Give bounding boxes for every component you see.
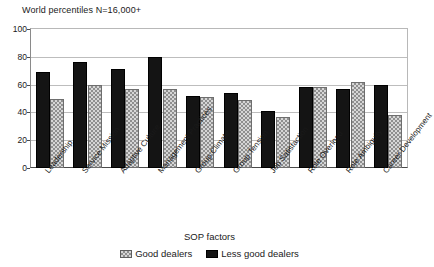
y-axis-tick-label: 100	[13, 25, 27, 34]
y-axis-tick-label: 20	[18, 136, 27, 145]
bar-less-good-dealers	[73, 62, 87, 168]
legend-swatch-good-dealers	[120, 250, 132, 258]
bar-less-good-dealers	[111, 69, 125, 168]
legend-item: Less good dealers	[206, 248, 299, 259]
bar-less-good-dealers	[36, 72, 50, 168]
legend-label: Less good dealers	[221, 248, 299, 259]
bar-less-good-dealers	[336, 89, 350, 168]
x-axis-title: SOP factors	[0, 231, 419, 242]
y-axis-tick-label: 80	[18, 53, 27, 62]
chart-legend: Good dealersLess good dealers	[0, 248, 419, 259]
legend-swatch-less-good-dealers	[206, 250, 218, 258]
y-axis: 020406080100	[0, 28, 27, 168]
bar-less-good-dealers	[374, 85, 388, 168]
legend-item: Good dealers	[120, 248, 192, 259]
y-axis-tick-mark	[27, 168, 30, 169]
x-axis-category-labels: LeadershipService MissionAdaptive Cultur…	[31, 170, 407, 240]
chart-title: World percentiles N=16,000+	[22, 5, 141, 15]
legend-label: Good dealers	[135, 248, 192, 259]
y-axis-tick-label: 60	[18, 81, 27, 90]
bar-less-good-dealers	[148, 57, 162, 168]
y-axis-tick-label: 40	[18, 108, 27, 117]
